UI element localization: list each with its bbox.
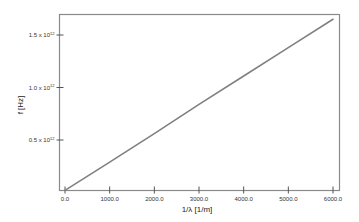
x-tick-label: 2000.0 — [145, 196, 164, 202]
data-series — [65, 19, 333, 190]
y-tick-label: 1.0 x 1012 — [29, 83, 56, 91]
x-tick-label: 6000.0 — [324, 196, 343, 202]
y-axis-label: f [Hz] — [16, 96, 25, 115]
x-axis-ticks: 0.01000.02000.03000.04000.05000.06000.0 — [61, 187, 343, 202]
x-tick-label: 4000.0 — [234, 196, 253, 202]
x-tick-label: 0.0 — [61, 196, 70, 202]
series-line — [65, 19, 333, 190]
x-tick-label: 5000.0 — [279, 196, 298, 202]
x-tick-label: 1000.0 — [100, 196, 119, 202]
y-axis-ticks: 0.5 x 10121.0 x 10121.5 x 1012 — [29, 31, 64, 144]
y-tick-label: 0.5 x 1012 — [29, 136, 56, 144]
chart: 0.01000.02000.03000.04000.05000.06000.0 … — [0, 0, 359, 222]
x-tick-label: 3000.0 — [190, 196, 209, 202]
x-axis-label: 1/λ [1/m] — [182, 205, 213, 214]
y-tick-label: 1.5 x 1012 — [29, 31, 56, 39]
